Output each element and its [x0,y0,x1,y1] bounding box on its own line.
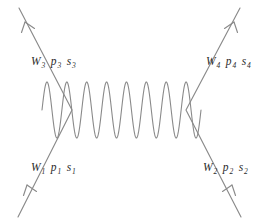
label-3-symbol: W [31,55,41,67]
label-2-spin-group: s2 [239,161,248,173]
label-4-momentum-sub: 4 [232,61,236,70]
label-4-momentum: p [226,55,232,67]
feynman-diagram: W3 p3 s3 W4 p4 s4 W1 p1 s1 W2 p2 s2 [0,0,259,221]
label-2-spin: s [239,161,244,173]
arrowhead-top-left [22,22,35,33]
label-4-spin-group: s4 [242,55,251,67]
label-1-symbol: W [31,161,41,173]
label-2-symbol-sub: 2 [213,167,217,176]
label-3-symbol-sub: 3 [41,61,45,70]
boson-propagator-wave [42,82,201,138]
label-particle-4: W4 p4 s4 [206,56,251,68]
label-2-symbol: W [203,161,213,173]
label-2-momentum: p [223,161,229,173]
label-1-symbol-sub: 1 [41,167,45,176]
label-particle-3: W3 p3 s3 [31,56,76,68]
label-3-momentum: p [51,55,57,67]
label-1-symbol-group: W1 [31,161,45,173]
label-2-spin-sub: 2 [244,167,248,176]
label-3-spin-sub: 3 [72,61,76,70]
feynman-diagram-canvas [0,0,259,221]
label-4-symbol-group: W4 [206,55,220,67]
label-3-spin: s [67,55,72,67]
label-particle-2: W2 p2 s2 [203,162,248,174]
label-3-momentum-group: p3 [51,55,61,67]
label-3-symbol-group: W3 [31,55,45,67]
label-1-momentum-group: p1 [51,161,61,173]
label-4-momentum-group: p4 [226,55,236,67]
label-2-momentum-group: p2 [223,161,233,173]
label-3-spin-group: s3 [67,55,76,67]
label-4-symbol: W [206,55,216,67]
label-3-momentum-sub: 3 [57,61,61,70]
label-particle-1: W1 p1 s1 [31,162,76,174]
label-2-momentum-sub: 2 [229,167,233,176]
fermion-line-left [18,8,72,217]
label-4-spin: s [242,55,247,67]
label-2-symbol-group: W2 [203,161,217,173]
label-1-spin-sub: 1 [72,167,76,176]
label-1-spin: s [67,161,72,173]
label-1-spin-group: s1 [67,161,76,173]
label-4-symbol-sub: 4 [216,61,220,70]
label-1-momentum: p [51,161,57,173]
label-4-spin-sub: 4 [247,61,251,70]
label-1-momentum-sub: 1 [57,167,61,176]
arrowhead-top-right [225,22,238,33]
